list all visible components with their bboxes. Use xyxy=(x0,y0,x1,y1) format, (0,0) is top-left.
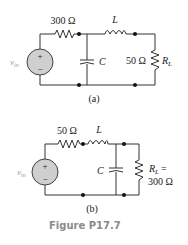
source-plus-a: + xyxy=(37,51,42,61)
figure-canvas: + − vin 300 Ω C L 50 Ω RL (a) + − xyxy=(0,0,188,245)
capacitor-a xyxy=(80,60,94,64)
node-a-1 xyxy=(77,32,81,36)
label-l-b: L xyxy=(95,124,102,135)
node-b-4 xyxy=(122,193,126,197)
wire-left-b xyxy=(45,144,58,159)
label-r1-b: 50 Ω xyxy=(57,125,77,136)
node-b-1 xyxy=(81,142,85,146)
label-r1-a: 300 Ω xyxy=(51,15,76,26)
label-rl-value-b: 300 Ω xyxy=(148,176,173,187)
source-subscript-b: in xyxy=(21,172,26,178)
source-plus-b: + xyxy=(42,161,47,171)
wire-left-bottom-a xyxy=(40,75,155,85)
subfigure-label-b: (b) xyxy=(86,203,98,215)
label-rl-sub-b: L xyxy=(154,168,159,176)
label-rl-symbol-a: R xyxy=(161,55,168,66)
capacitor-b xyxy=(109,168,123,172)
node-b-3 xyxy=(81,193,85,197)
source-minus-a: − xyxy=(37,64,42,74)
source-label-a: vin xyxy=(10,57,19,68)
source-label-b: vin xyxy=(17,167,26,178)
resistor-50-b xyxy=(58,140,80,148)
source-subscript-a: in xyxy=(14,62,19,68)
source-minus-b: − xyxy=(42,174,47,184)
node-a-3 xyxy=(77,83,81,87)
resistor-300-a xyxy=(55,30,74,38)
label-rl-symbol-b: R xyxy=(148,163,155,174)
label-rl-equals-b: = xyxy=(161,163,167,174)
inductor-b xyxy=(88,141,108,145)
node-a-4 xyxy=(133,83,137,87)
figure-caption: Figure P17.7 xyxy=(49,220,121,231)
node-a-2 xyxy=(133,32,137,36)
label-c-a: C xyxy=(99,56,106,67)
circuit-a: + − vin 300 Ω C L 50 Ω RL (a) xyxy=(10,14,172,105)
node-b-2 xyxy=(122,142,126,146)
resistor-rl-b xyxy=(135,160,143,180)
label-rl-value-a: 50 Ω xyxy=(126,55,146,66)
label-rl-b: RL= xyxy=(148,163,167,176)
label-c-b: C xyxy=(97,165,104,176)
wire-top-right-a xyxy=(126,34,155,50)
label-rl-sub-a: L xyxy=(167,60,172,68)
label-rl-a: RL xyxy=(161,55,172,68)
resistor-rl-a xyxy=(151,50,159,70)
label-l-a: L xyxy=(111,14,118,25)
wire-left-a xyxy=(40,34,55,49)
wire-top-right-b xyxy=(108,144,139,160)
inductor-a xyxy=(105,31,126,35)
subfigure-label-a: (a) xyxy=(88,93,99,105)
circuit-b: + − vin 50 Ω L C RL= 300 Ω (b) xyxy=(17,124,173,215)
